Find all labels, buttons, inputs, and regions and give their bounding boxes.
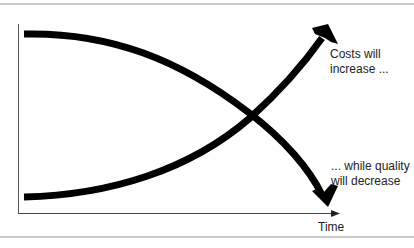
quality-annotation-line1: ... while quality [331, 159, 410, 174]
x-axis-arrowhead-icon [331, 210, 340, 217]
quality-annotation-line2: will decrease [331, 174, 410, 189]
quality-annotation: ... while quality will decrease [331, 159, 410, 189]
costs-annotation: Costs will increase ... [330, 47, 389, 77]
x-axis-label: Time [318, 220, 344, 235]
costs-annotation-line1: Costs will [330, 47, 389, 62]
trend-diagram [0, 0, 414, 248]
quality-curve [24, 34, 322, 195]
costs-annotation-line2: increase ... [330, 62, 389, 77]
